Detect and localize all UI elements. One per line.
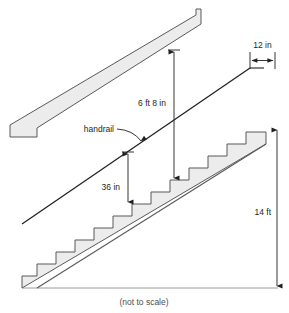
handrail-callout-label: handrail	[84, 124, 114, 134]
handrail-height-label: 36 in	[102, 182, 121, 192]
headroom-label: 6 ft 8 in	[138, 98, 166, 108]
stair-stringer	[37, 144, 266, 288]
diagram-canvas: 12 in 6 ft 8 in 36 in 14 ft handrail (no…	[0, 0, 289, 313]
staircase-diagram: 12 in 6 ft 8 in 36 in 14 ft handrail (no…	[0, 0, 289, 313]
total-rise-label: 14 ft	[254, 207, 271, 217]
total-rise-dimension: 14 ft	[254, 130, 277, 286]
headroom-dimension: 6 ft 8 in	[138, 50, 180, 178]
tread-width-label: 12 in	[253, 40, 272, 50]
tread-width-dimension: 12 in	[250, 40, 275, 69]
figure-caption: (not to scale)	[119, 297, 168, 307]
staircase	[22, 132, 266, 288]
handrail-callout: handrail	[84, 124, 141, 141]
handrail-height-dimension: 36 in	[102, 152, 134, 202]
overhead-beam	[10, 9, 201, 137]
